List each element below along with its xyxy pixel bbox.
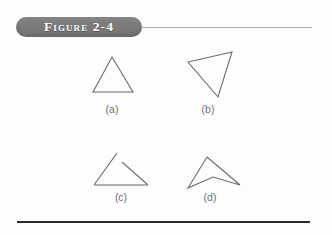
shapes-canvas (0, 0, 332, 235)
shape-a-label: (a) (92, 103, 132, 115)
shape-c-left-stroke (94, 153, 117, 185)
shape-b-triangle (188, 52, 232, 97)
shape-c-label: (c) (101, 191, 141, 203)
shape-a-triangle (93, 57, 133, 92)
figure-bottom-rule (17, 221, 310, 223)
shape-c-right-stroke (122, 162, 148, 185)
shape-b-label: (b) (188, 103, 228, 115)
shape-d-label: (d) (190, 191, 230, 203)
shape-d-dart (188, 157, 240, 188)
